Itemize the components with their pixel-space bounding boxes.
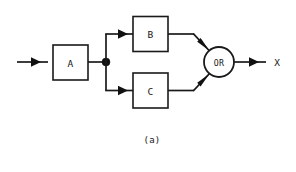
block-b-label: B — [148, 29, 154, 40]
or-gate-input-bottom-arrowhead-icon — [197, 74, 209, 87]
figure-canvas: A B C — [0, 0, 296, 172]
output-signal-label: X — [274, 57, 280, 68]
output-arrowhead-icon — [249, 57, 259, 67]
block-a-group[interactable]: A — [53, 45, 88, 80]
upper-branch-wire-group — [105, 29, 133, 62]
lower-branch-wire-group — [105, 62, 133, 95]
output-wire-group: X — [234, 57, 280, 68]
figure-caption: (a) — [143, 135, 160, 145]
input-wire-group — [17, 57, 48, 67]
block-diagram: A B C — [0, 0, 296, 172]
block-c-group[interactable]: C — [133, 73, 168, 108]
or-gate-label: OR — [214, 58, 224, 68]
or-gate-input-top-arrowhead-icon — [197, 38, 209, 51]
block-c-output-wire-group — [168, 73, 210, 91]
or-gate-group[interactable]: OR — [204, 47, 234, 77]
block-b-group[interactable]: B — [133, 17, 168, 52]
block-b-input-arrowhead-icon — [118, 29, 128, 39]
block-c-input-arrowhead-icon — [118, 86, 128, 96]
block-b-output-wire-group — [168, 34, 210, 52]
block-a-label: A — [68, 58, 74, 69]
block-c-label: C — [148, 86, 154, 97]
input-arrowhead-icon — [31, 57, 41, 67]
